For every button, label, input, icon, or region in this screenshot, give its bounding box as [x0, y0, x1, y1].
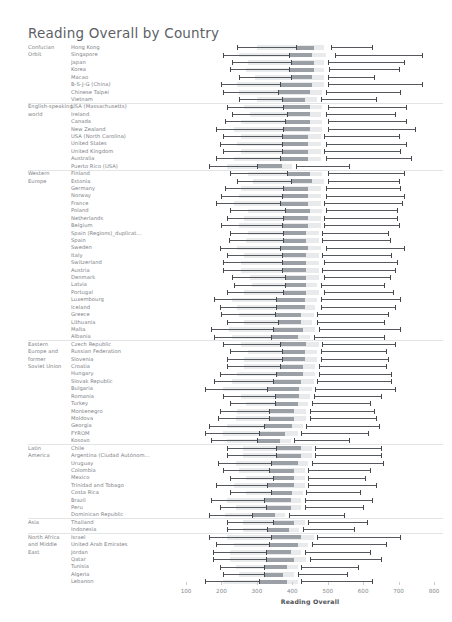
chart-row[interactable]: Costa Rica: [0, 489, 452, 496]
chart-row[interactable]: Bulgaria: [0, 385, 452, 392]
chart-row[interactable]: Singapore: [0, 51, 452, 58]
chart-row[interactable]: Israel: [0, 534, 452, 541]
chart-row[interactable]: Sweden: [0, 244, 452, 251]
chart-row[interactable]: Romania: [0, 393, 452, 400]
chart-row[interactable]: Uruguay: [0, 460, 452, 467]
chart-row[interactable]: Colombia: [0, 467, 452, 474]
chart-row[interactable]: Finland: [0, 170, 452, 177]
chart-row[interactable]: Georgia: [0, 422, 452, 429]
chart-row[interactable]: Jordan: [0, 549, 452, 556]
chart-row[interactable]: Slovenia: [0, 356, 452, 363]
chart-row[interactable]: Latvia: [0, 281, 452, 288]
cap-inner-low: [291, 179, 292, 184]
chart-row[interactable]: Czech Republic: [0, 341, 452, 348]
chart-row[interactable]: Peru: [0, 504, 452, 511]
chart-row[interactable]: Slovak Republic: [0, 378, 452, 385]
whisker-low: [225, 188, 283, 189]
chart-row[interactable]: Algeria: [0, 571, 452, 578]
chart-row[interactable]: Hong Kong: [0, 44, 452, 51]
whisker-high: [322, 270, 395, 271]
chart-row[interactable]: Mexico: [0, 474, 452, 481]
chart-row[interactable]: Argentina (Ciudad Autónom...: [0, 452, 452, 459]
plot-area: ConfucianOrbitHong KongSingaporeJapanKor…: [0, 44, 452, 582]
chart-row[interactable]: Japan: [0, 59, 452, 66]
chart-row[interactable]: Belgium: [0, 222, 452, 229]
chart-row[interactable]: Germany: [0, 185, 452, 192]
chart-row[interactable]: France: [0, 200, 452, 207]
range-band-dark: [282, 142, 309, 146]
chart-row[interactable]: B-S-J-G (China): [0, 81, 452, 88]
chart-row[interactable]: Norway: [0, 192, 452, 199]
range-band-dark: [271, 535, 301, 539]
chart-row[interactable]: Turkey: [0, 400, 452, 407]
chart-row[interactable]: Macao: [0, 74, 452, 81]
chart-row[interactable]: Austria: [0, 267, 452, 274]
whisker-high: [328, 181, 399, 182]
chart-row[interactable]: Brazil: [0, 497, 452, 504]
row-label: Lithuania: [71, 319, 169, 326]
chart-row[interactable]: Trinidad and Tobago: [0, 482, 452, 489]
chart-row[interactable]: Luxembourg: [0, 296, 452, 303]
chart-row[interactable]: Spain (Regions)_duplicat...: [0, 230, 452, 237]
cap-inner-high: [298, 572, 299, 577]
chart-row[interactable]: Portugal: [0, 289, 452, 296]
whisker-low: [221, 314, 274, 315]
chart-row[interactable]: Estonia: [0, 178, 452, 185]
chart-row[interactable]: Greece: [0, 311, 452, 318]
chart-row[interactable]: Switzerland: [0, 259, 452, 266]
chart-row[interactable]: Netherlands: [0, 215, 452, 222]
chart-row[interactable]: Moldova: [0, 415, 452, 422]
row-label: Iceland: [71, 304, 169, 311]
cap-high: [422, 53, 423, 58]
chart-row[interactable]: United Kingdom: [0, 148, 452, 155]
cap-inner-high: [321, 305, 322, 310]
row-label: Argentina (Ciudad Autónom...: [71, 452, 169, 459]
chart-row[interactable]: United Arab Emirates: [0, 541, 452, 548]
chart-row[interactable]: Malta: [0, 326, 452, 333]
chart-row[interactable]: Montenegro: [0, 408, 452, 415]
chart-row[interactable]: Korea: [0, 66, 452, 73]
whisker-low: [234, 285, 285, 286]
whisker-high: [317, 381, 391, 382]
whisker-low: [229, 240, 284, 241]
chart-row[interactable]: Australia: [0, 155, 452, 162]
chart-row[interactable]: Russian Federation: [0, 348, 452, 355]
chart-row[interactable]: Tunisia: [0, 563, 452, 570]
chart-row[interactable]: Croatia: [0, 363, 452, 370]
cap-inner-low: [296, 45, 297, 50]
whisker-low: [227, 529, 268, 530]
chart-row[interactable]: Hungary: [0, 370, 452, 377]
chart-row[interactable]: Poland: [0, 207, 452, 214]
cap-low: [223, 149, 224, 154]
cap-inner-high: [328, 119, 329, 124]
chart-row[interactable]: United States: [0, 140, 452, 147]
cap-low: [227, 364, 228, 369]
chart-row[interactable]: Canada: [0, 118, 452, 125]
cap-low: [230, 208, 231, 213]
chart-row[interactable]: New Zealand: [0, 126, 452, 133]
chart-row[interactable]: USA (Massachusetts): [0, 103, 452, 110]
chart-row[interactable]: Denmark: [0, 274, 452, 281]
chart-row[interactable]: FYROM: [0, 430, 452, 437]
cap-low: [220, 505, 221, 510]
chart-row[interactable]: Chinese Taipei: [0, 89, 452, 96]
range-band-dark: [267, 528, 288, 532]
chart-row[interactable]: Thailand: [0, 519, 452, 526]
whisker-low: [205, 433, 258, 434]
cap-inner-low: [285, 208, 286, 213]
chart-row[interactable]: Lithuania: [0, 319, 452, 326]
chart-row[interactable]: Ireland: [0, 111, 452, 118]
chart-row[interactable]: USA (North Carolina): [0, 133, 452, 140]
cap-high: [384, 335, 385, 340]
chart-row[interactable]: Iceland: [0, 304, 452, 311]
cap-low: [230, 231, 231, 236]
chart-row[interactable]: Italy: [0, 252, 452, 259]
whisker-high: [324, 262, 397, 263]
cap-inner-high: [312, 461, 313, 466]
cap-low: [239, 75, 240, 80]
cap-low: [223, 90, 224, 95]
chart-row[interactable]: Qatar: [0, 556, 452, 563]
chart-row[interactable]: Spain: [0, 237, 452, 244]
cap-low: [209, 424, 210, 429]
chart-row[interactable]: Chile: [0, 445, 452, 452]
